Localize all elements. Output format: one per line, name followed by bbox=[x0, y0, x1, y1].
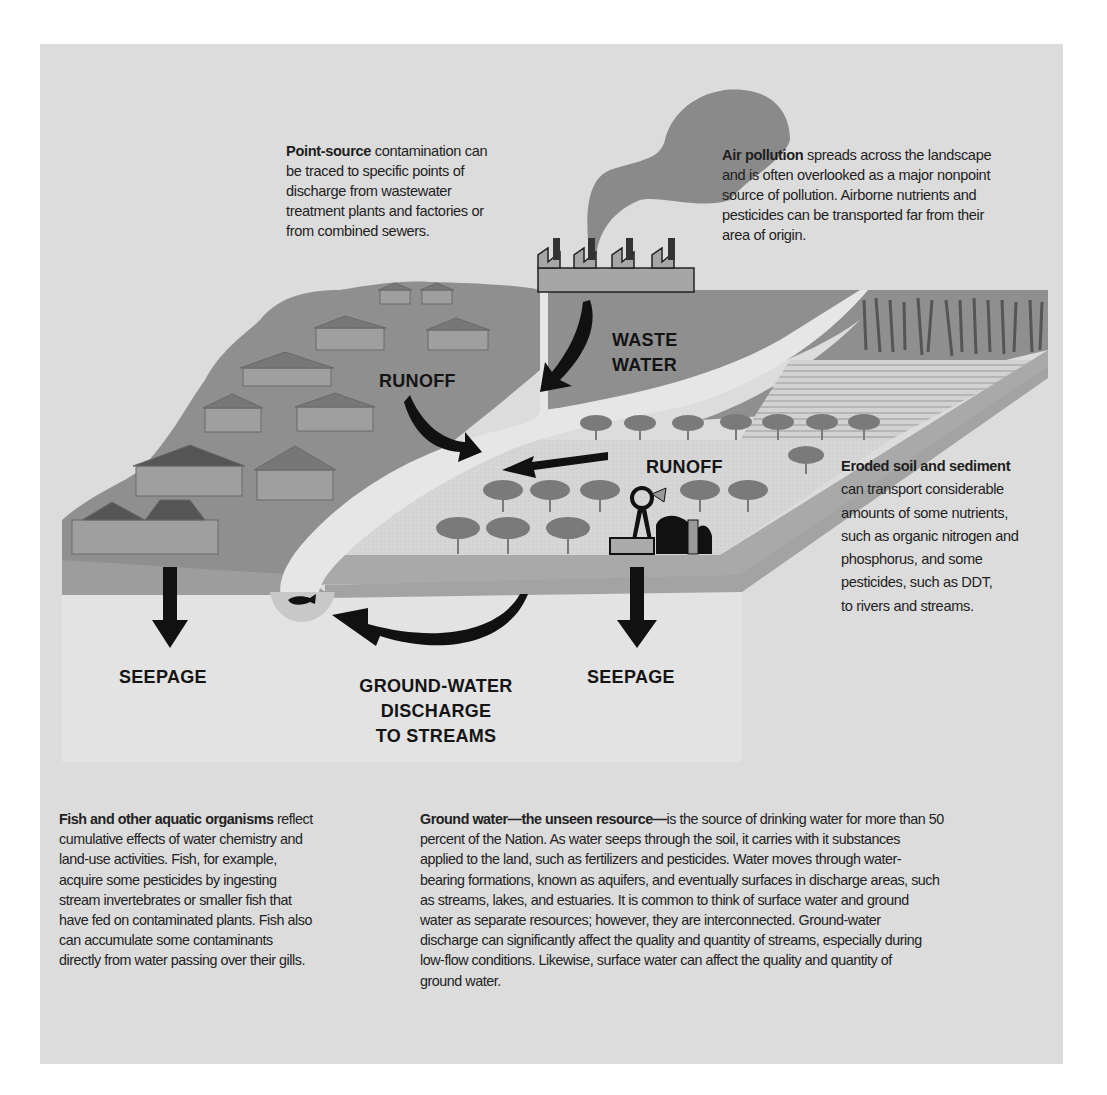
text-line: stream invertebrates or smaller fish tha… bbox=[59, 890, 313, 910]
callout-line: spreads across the landscape bbox=[803, 147, 991, 163]
text-line: land-use activities. Fish, for example, bbox=[59, 849, 313, 869]
text-line: applied to the land, such as fertilizers… bbox=[420, 849, 944, 869]
tree-icon bbox=[624, 415, 656, 440]
text-line: ground water. bbox=[420, 971, 944, 991]
waste-water-label: WASTE WATER bbox=[612, 328, 678, 378]
waste-water-line-1: WASTE bbox=[612, 328, 678, 353]
tree-icon bbox=[672, 415, 704, 440]
text-line: discharge can significantly affect the q… bbox=[420, 930, 944, 950]
fish-heading: Fish and other aquatic organisms bbox=[59, 811, 273, 827]
text-line: water as separate resources; however, th… bbox=[420, 910, 944, 930]
factory-icon bbox=[538, 238, 694, 292]
text-line: is the source of drinking water for more… bbox=[667, 811, 944, 827]
runoff-agricultural-label: RUNOFF bbox=[646, 455, 723, 480]
seepage-left-label: SEEPAGE bbox=[119, 665, 207, 690]
callout-line: to rivers and streams. bbox=[841, 595, 1019, 618]
callout-line: phosphorus, and some bbox=[841, 548, 1019, 571]
text-line: reflect bbox=[273, 811, 312, 827]
text-line: acquire some pesticides by ingesting bbox=[59, 870, 313, 890]
callout-line: treatment plants and factories or bbox=[286, 201, 487, 221]
callout-line: pesticides can be transported far from t… bbox=[722, 205, 991, 225]
callout-line: pesticides, such as DDT, bbox=[841, 571, 1019, 594]
ground-water-text-block: Ground water—the unseen resource—is the … bbox=[420, 809, 944, 991]
gw-discharge-line-2: DISCHARGE bbox=[346, 699, 526, 724]
text-line: have fed on contaminated plants. Fish al… bbox=[59, 910, 313, 930]
callout-line: contamination can bbox=[371, 143, 487, 159]
text-line: cumulative effects of water chemistry an… bbox=[59, 829, 313, 849]
eroded-soil-heading: Eroded soil and sediment bbox=[841, 458, 1010, 474]
point-source-callout: Point-source contamination can be traced… bbox=[286, 141, 487, 241]
callout-line: from combined sewers. bbox=[286, 221, 487, 241]
text-line: as streams, lakes, and estuaries. It is … bbox=[420, 890, 944, 910]
callout-line: amounts of some nutrients, bbox=[841, 502, 1019, 525]
callout-line: source of pollution. Airborne nutrients … bbox=[722, 185, 991, 205]
text-line: low-flow conditions. Likewise, surface w… bbox=[420, 950, 944, 970]
text-line: bearing formations, known as aquifers, a… bbox=[420, 870, 944, 890]
air-pollution-heading: Air pollution bbox=[722, 147, 803, 163]
text-line: can accumulate some contaminants bbox=[59, 930, 313, 950]
seepage-right-label: SEEPAGE bbox=[587, 665, 675, 690]
text-line: percent of the Nation. As water seeps th… bbox=[420, 829, 944, 849]
gw-discharge-line-3: TO STREAMS bbox=[346, 724, 526, 749]
eroded-soil-callout: Eroded soil and sediment can transport c… bbox=[841, 455, 1019, 618]
callout-line: area of origin. bbox=[722, 225, 991, 245]
callout-line: and is often overlooked as a major nonpo… bbox=[722, 165, 991, 185]
tree-icon bbox=[580, 415, 612, 440]
ground-water-discharge-label: GROUND-WATER DISCHARGE TO STREAMS bbox=[346, 674, 526, 749]
runoff-residential-label: RUNOFF bbox=[379, 369, 456, 394]
waste-water-line-2: WATER bbox=[612, 353, 678, 378]
text-line: directly from water passing over their g… bbox=[59, 950, 313, 970]
fish-text-block: Fish and other aquatic organisms reflect… bbox=[59, 809, 313, 971]
callout-line: such as organic nitrogen and bbox=[841, 525, 1019, 548]
ground-water-heading: Ground water—the unseen resource— bbox=[420, 811, 667, 827]
air-pollution-callout: Air pollution spreads across the landsca… bbox=[722, 145, 991, 245]
callout-line: discharge from wastewater bbox=[286, 181, 487, 201]
point-source-heading: Point-source bbox=[286, 143, 371, 159]
gw-discharge-line-1: GROUND-WATER bbox=[346, 674, 526, 699]
callout-line: be traced to specific points of bbox=[286, 161, 487, 181]
callout-line: can transport considerable bbox=[841, 478, 1019, 501]
